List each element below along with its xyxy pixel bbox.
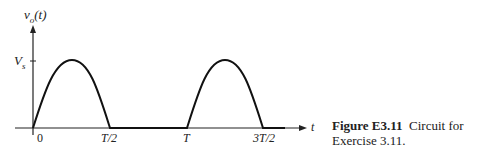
tick-label-period: T <box>183 131 190 146</box>
y-axis-arrow-icon <box>30 25 36 33</box>
waveform-curve <box>33 60 285 128</box>
tick-label-three-half-period: 3T/2 <box>253 131 275 146</box>
x-axis-label: t <box>311 120 314 135</box>
y-axis-label: vo(t) <box>24 7 47 25</box>
tick-label-half-period: T/2 <box>101 131 117 146</box>
vs-label: Vs <box>14 53 25 71</box>
x-axis-arrow-icon <box>299 125 307 131</box>
tick-label-zero: 0 <box>37 131 43 146</box>
figure-caption: Figure E3.11 Circuit for Exercise 3.11. <box>332 118 482 148</box>
figure-number: Figure E3.11 <box>332 118 403 133</box>
